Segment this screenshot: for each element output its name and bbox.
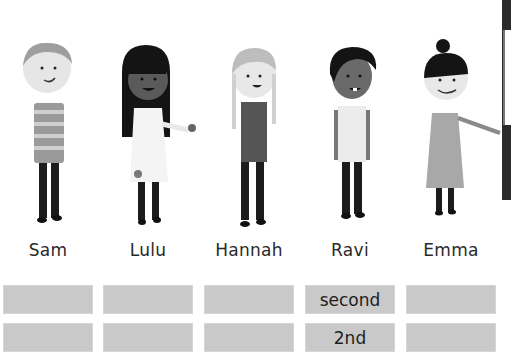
figure-emma [424, 38, 504, 218]
ordinal-number-box[interactable] [204, 323, 294, 352]
figure-hannah [226, 44, 286, 229]
ordinal-number-box[interactable] [406, 323, 496, 352]
ordinal-word-box[interactable] [204, 285, 294, 314]
name-label: Lulu [98, 240, 198, 260]
name-label: Emma [401, 240, 501, 260]
ordinal-number-box[interactable]: 2nd [305, 323, 395, 352]
ordinal-word-box[interactable] [3, 285, 93, 314]
name-label: Ravi [300, 240, 400, 260]
figure-ravi [326, 44, 381, 224]
ordinal-word-box[interactable] [406, 285, 496, 314]
name-label: Hannah [199, 240, 299, 260]
ordinal-number-box[interactable] [103, 323, 193, 352]
ordinal-number-box[interactable] [3, 323, 93, 352]
ordinal-word-box[interactable] [103, 285, 193, 314]
figure-lulu [118, 42, 208, 227]
ordinal-word-box[interactable]: second [305, 285, 395, 314]
figure-sam [15, 38, 75, 228]
name-label: Sam [0, 240, 98, 260]
